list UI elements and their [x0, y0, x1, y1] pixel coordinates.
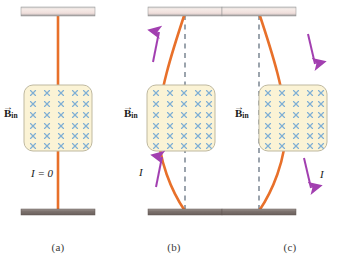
- panel-a: →Bin I = 0 (a): [0, 0, 116, 255]
- caption-a: (a): [0, 241, 116, 253]
- panel-c-graphic: [232, 0, 348, 232]
- vector-arrow-icon: →: [234, 102, 244, 112]
- current-label-a: I = 0: [31, 167, 53, 179]
- magnetic-field-region-b: [147, 85, 215, 151]
- vector-arrow-icon: →: [123, 102, 133, 112]
- top-support-bar-a: [21, 7, 95, 16]
- b-subscript: in: [242, 111, 248, 120]
- magnetic-field-region-c: [259, 85, 327, 151]
- current-arrow-upper-c: [308, 34, 315, 64]
- vector-arrow-icon: →: [3, 102, 13, 112]
- caption-b: (b): [116, 241, 232, 253]
- b-subscript: in: [131, 111, 137, 120]
- top-support-bar-b: [148, 7, 222, 16]
- b-subscript: in: [11, 111, 17, 120]
- current-label-b: I: [139, 166, 143, 178]
- current-arrow-lower-b: [156, 157, 162, 187]
- current-arrow-lower-c: [304, 158, 311, 188]
- b-field-label-c: →Bin: [235, 108, 249, 120]
- magnetic-field-region-a: [24, 85, 92, 151]
- bottom-support-bar-a: [21, 209, 95, 215]
- bottom-support-bar-c: [222, 209, 296, 215]
- b-field-label-b: →Bin: [124, 108, 138, 120]
- b-field-label-a: →Bin: [4, 108, 18, 120]
- current-arrow-upper-b: [153, 32, 159, 62]
- panel-c: →Bin I (c): [232, 0, 348, 255]
- panel-b: →Bin I (b): [116, 0, 232, 255]
- caption-c: (c): [232, 241, 348, 253]
- bottom-support-bar-b: [148, 209, 222, 215]
- top-support-bar-c: [222, 7, 296, 16]
- physics-figure: →Bin I = 0 (a): [0, 0, 348, 255]
- current-label-c: I: [320, 168, 324, 180]
